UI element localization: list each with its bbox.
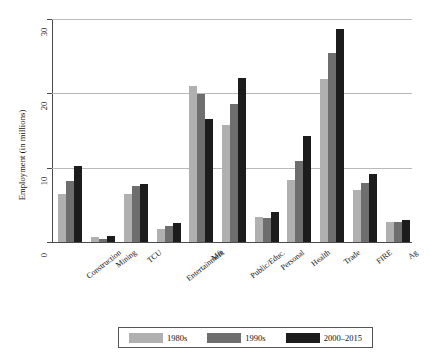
- x-axis-label: FIRE: [375, 248, 394, 266]
- bar: [189, 86, 197, 242]
- x-axis-line: [52, 242, 412, 243]
- bar-group: [222, 19, 246, 242]
- bar: [157, 229, 165, 242]
- bar: [369, 174, 377, 242]
- bar: [197, 94, 205, 242]
- bar: [58, 194, 66, 242]
- bar: [287, 180, 295, 242]
- bar-group: [58, 19, 82, 242]
- bar: [255, 217, 263, 242]
- bar-group: [124, 19, 148, 242]
- bar: [303, 136, 311, 242]
- bar-group: [255, 19, 279, 242]
- bar: [173, 223, 181, 242]
- bar-group: [320, 19, 344, 242]
- bar: [132, 186, 140, 242]
- bar: [140, 184, 148, 242]
- bar: [230, 104, 238, 242]
- bar: [124, 194, 132, 242]
- bar: [295, 161, 303, 242]
- bar: [66, 181, 74, 242]
- bar: [263, 218, 271, 242]
- bar: [238, 78, 246, 242]
- legend-label: 1980s: [167, 333, 187, 343]
- x-axis-label: Ag: [406, 248, 419, 261]
- bar: [165, 226, 173, 242]
- x-axis-label: Trade: [342, 248, 362, 266]
- bar: [328, 53, 336, 242]
- x-axis-label: Health: [310, 248, 332, 268]
- employment-bar-chart-figure: Employment (in millions) 0102030 Constru…: [0, 0, 430, 357]
- legend-item: 1980s: [129, 333, 187, 343]
- bar-group: [91, 19, 115, 242]
- y-tick-label-10: 10: [39, 168, 49, 194]
- bar-group: [386, 19, 410, 242]
- bar: [336, 29, 344, 242]
- bar: [107, 236, 115, 242]
- bar: [361, 183, 369, 242]
- bar-group: [157, 19, 181, 242]
- y-tick-label-20: 20: [39, 93, 49, 119]
- bar: [91, 237, 99, 242]
- bar: [353, 190, 361, 242]
- bar: [402, 220, 410, 242]
- bar: [320, 79, 328, 242]
- bar: [99, 239, 107, 242]
- bar-group: [287, 19, 311, 242]
- legend-swatch: [207, 333, 241, 343]
- legend-label: 1990s: [245, 333, 265, 343]
- legend-swatch: [129, 333, 163, 343]
- legend-swatch: [286, 333, 320, 343]
- bar: [74, 166, 82, 242]
- y-axis-title: Employment (in millions): [17, 70, 27, 240]
- bar: [271, 212, 279, 242]
- y-tick-label-30: 30: [39, 19, 49, 45]
- bar: [205, 119, 213, 242]
- legend-item: 2000–2015: [286, 333, 362, 343]
- x-axis-label: TCU: [145, 248, 163, 265]
- bar: [394, 222, 402, 242]
- bar: [386, 222, 394, 242]
- bar-group: [353, 19, 377, 242]
- bar: [222, 125, 230, 242]
- chart-legend: 1980s1990s2000–2015: [118, 327, 373, 348]
- bar-group: [189, 19, 213, 242]
- legend-item: 1990s: [207, 333, 265, 343]
- plot-area: 0102030: [52, 19, 412, 242]
- legend-label: 2000–2015: [324, 333, 362, 343]
- y-tick-label-0: 0: [39, 242, 49, 268]
